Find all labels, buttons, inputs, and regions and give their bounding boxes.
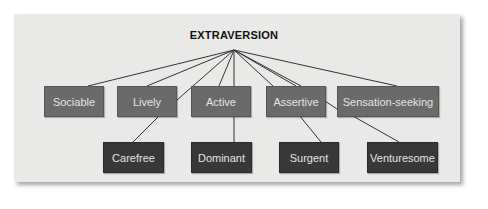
node-label: Sensation-seeking <box>343 96 434 108</box>
line-to-sensation-seeking <box>234 50 397 86</box>
node-label: Active <box>206 96 236 108</box>
node-active: Active <box>191 86 251 117</box>
node-surgent: Surgent <box>279 142 339 173</box>
node-carefree: Carefree <box>103 142 164 173</box>
diagram-title: EXTRAVERSION <box>0 29 468 41</box>
line-to-surgent-lower <box>299 115 321 142</box>
node-label: Lively <box>133 96 161 108</box>
node-sociable: Sociable <box>44 86 104 117</box>
line-to-carefree-lower <box>133 115 160 142</box>
node-dominant: Dominant <box>191 142 252 173</box>
node-venturesome: Venturesome <box>367 142 438 173</box>
node-sensation-seeking: Sensation-seeking <box>337 86 439 117</box>
node-label: Assertive <box>273 96 318 108</box>
line-to-venturesome-mid <box>325 101 337 109</box>
node-assertive: Assertive <box>266 86 326 117</box>
line-to-venturesome-lower <box>351 115 399 142</box>
node-lively: Lively <box>117 86 177 117</box>
node-label: Dominant <box>198 152 245 164</box>
node-label: Sociable <box>53 96 95 108</box>
node-label: Carefree <box>112 152 155 164</box>
node-label: Venturesome <box>370 152 435 164</box>
node-label: Surgent <box>290 152 329 164</box>
